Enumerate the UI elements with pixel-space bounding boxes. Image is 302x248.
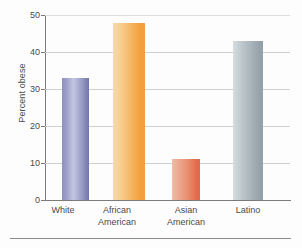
x-axis-line [45,200,291,201]
x-label-asian-american: Asian American [158,205,214,228]
x-label-latino: Latino [222,205,274,217]
x-label-african-american: African American [89,205,145,228]
x-label-african-american-line-2: American [89,217,145,229]
x-label-african-american-line-1: African [89,205,145,217]
x-label-asian-american-line-2: American [158,217,214,229]
bar-african-american [113,23,145,200]
gridline-50 [45,15,290,16]
x-label-latino-line-1: Latino [222,205,274,217]
x-label-white: White [40,205,86,217]
y-tick-label-10: 10 [14,158,40,168]
y-tick-label-50: 50 [14,10,40,20]
y-tick-label-20: 20 [14,121,40,131]
x-label-white-line-1: White [40,205,86,217]
bar-white [62,78,89,200]
y-tick-label-30: 30 [14,84,40,94]
x-label-asian-american-line-1: Asian [158,205,214,217]
bar-chart-figure: Percent obese 50 40 30 20 10 0 White Afr… [0,0,302,248]
bar-asian-american [172,159,200,200]
footer-rule [10,238,291,239]
plot-area [45,15,290,200]
y-tick-label-0: 0 [14,195,40,205]
y-tick-label-40: 40 [14,47,40,57]
bar-latino [233,41,263,200]
